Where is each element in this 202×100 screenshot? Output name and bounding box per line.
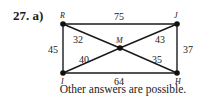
weight-R-I: 45 [48,44,58,55]
footnote: Other answers are possible. [22,83,202,95]
vertex-R [60,21,66,27]
weight-R-M: 32 [73,34,83,45]
vertex-label-J: J [174,11,178,20]
vertex-J [174,21,180,27]
edge-M-H [120,48,177,73]
weight-I-M: 40 [79,54,89,65]
vertex-H [174,70,180,76]
weight-R-J: 75 [114,11,124,22]
vertex-I [60,70,66,76]
vertex-M [117,45,123,51]
edge-I-M [63,48,120,73]
edge-R-M [63,24,120,48]
weight-M-J: 43 [155,34,165,45]
edge-M-J [120,24,177,48]
vertex-label-R: R [59,11,65,20]
weight-J-H: 37 [183,44,193,55]
vertex-label-M: M [115,36,124,45]
weight-M-H: 35 [152,54,162,65]
